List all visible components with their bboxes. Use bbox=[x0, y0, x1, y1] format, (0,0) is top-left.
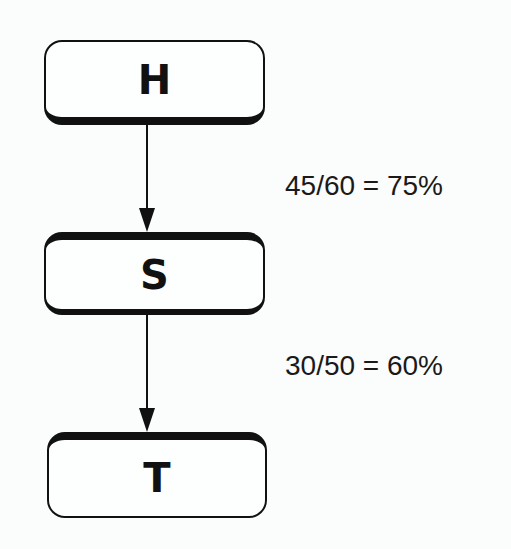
edge-h-to-s bbox=[139, 125, 155, 232]
node-h: H bbox=[44, 40, 265, 125]
node-s-label: S bbox=[140, 252, 169, 298]
edge-label-s-t: 30/50 = 60% bbox=[285, 350, 443, 382]
node-t-label: T bbox=[143, 455, 170, 501]
arrowhead-icon bbox=[139, 208, 155, 232]
edge-s-to-t bbox=[139, 315, 155, 432]
arrowhead-icon bbox=[139, 408, 155, 432]
node-t: T bbox=[47, 432, 267, 518]
node-s: S bbox=[44, 232, 265, 315]
edge-label-h-s: 45/60 = 75% bbox=[285, 170, 443, 202]
node-h-label: H bbox=[138, 57, 171, 103]
